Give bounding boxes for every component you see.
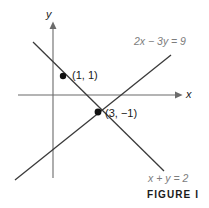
point-label-3-minus-1: (3, −1) [105,108,137,119]
x-axis-label: x [186,89,192,100]
point-label-1-1: (1, 1) [72,70,98,81]
equation-label-2x-3y-9: 2x − 3y = 9 [134,36,186,47]
figure-caption: FIGURE I [147,189,199,200]
point-marker-1-1 [60,73,66,79]
y-axis-label: y [46,9,52,20]
equation-label-x-y-2: x + y = 2 [148,173,188,184]
figure-container: y x (1, 1) (3, −1) 2x − 3y = 9 x + y = 2… [0,0,209,208]
point-marker-3-minus-1 [95,109,102,116]
